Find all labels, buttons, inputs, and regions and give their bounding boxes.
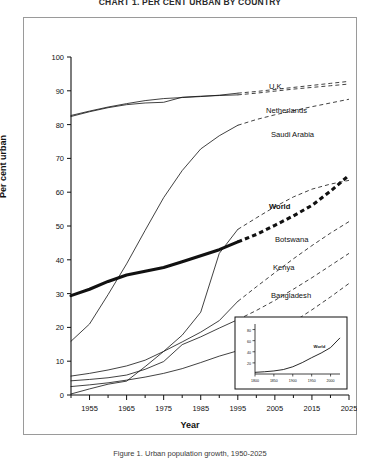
x-tick-label: 2005	[267, 404, 284, 413]
series-label-botswana: Botswana	[275, 235, 309, 244]
y-tick-label: 0	[60, 391, 64, 400]
x-tick-label: 1955	[81, 404, 98, 413]
x-tick-label: 1965	[118, 404, 135, 413]
inset-y-tick-label: 60	[247, 340, 251, 344]
series-line-observed	[71, 95, 238, 117]
series-line-projected	[238, 81, 349, 93]
x-tick-label: 2015	[304, 404, 321, 413]
chart-caption: Figure 1. Urban population growth, 1950-…	[0, 449, 380, 458]
x-axis-title: Year	[0, 420, 380, 430]
y-tick-label: 90	[56, 87, 64, 96]
series-line-observed	[71, 229, 238, 394]
series-line-observed	[71, 320, 238, 381]
chart-plot: 0102030405060708090100195519651975198519…	[23, 17, 357, 435]
series-line-observed	[71, 242, 238, 296]
x-tick-label: 2025	[341, 404, 357, 413]
series-label-world: World	[269, 202, 291, 211]
inset-chart: 2040608018001850190019502000World	[235, 317, 347, 389]
inset-x-tick-label: 2000	[327, 379, 335, 383]
inset-series-label: World	[314, 344, 326, 349]
inset-x-tick-label: 1850	[270, 379, 278, 383]
y-tick-label: 60	[56, 188, 64, 197]
series-line-projected	[238, 175, 349, 242]
series-label-bangladesh: Bangladesh	[271, 291, 311, 300]
series-label-netherlands: Netherlands	[266, 106, 307, 115]
y-tick-label: 10	[56, 357, 64, 366]
x-tick-label: 1995	[229, 404, 246, 413]
inset-x-tick-label: 1950	[308, 379, 316, 383]
x-tick-label: 1975	[155, 404, 172, 413]
inset-y-tick-label: 20	[247, 362, 251, 366]
y-tick-label: 50	[56, 222, 64, 231]
y-tick-label: 100	[51, 53, 64, 62]
x-tick-label: 1985	[192, 404, 209, 413]
series-label-u-k: U.K.	[269, 82, 284, 91]
series-line-projected	[238, 84, 349, 95]
inset-y-tick-label: 80	[247, 329, 251, 333]
y-tick-label: 40	[56, 256, 64, 265]
inset-x-tick-label: 1800	[251, 379, 259, 383]
series-u-k	[71, 81, 349, 115]
y-tick-label: 70	[56, 154, 64, 163]
series-line-observed	[71, 301, 238, 376]
series-label-kenya: Kenya	[273, 263, 295, 272]
series-netherlands	[71, 84, 349, 116]
figure-container: CHART 1. PER CENT URBAN BY COUNTRY 01020…	[0, 0, 380, 465]
y-axis-title: Per cent urban	[0, 135, 8, 198]
inset-x-tick-label: 1900	[289, 379, 297, 383]
y-tick-label: 80	[56, 121, 64, 130]
inset-y-tick-label: 40	[247, 351, 251, 355]
series-line-observed	[71, 125, 238, 341]
y-tick-label: 30	[56, 290, 64, 299]
chart-title: CHART 1. PER CENT URBAN BY COUNTRY	[0, 0, 380, 7]
series-label-saudi-arabia: Saudi Arabia	[271, 130, 315, 139]
series-line-observed	[71, 93, 238, 115]
y-tick-label: 20	[56, 323, 64, 332]
